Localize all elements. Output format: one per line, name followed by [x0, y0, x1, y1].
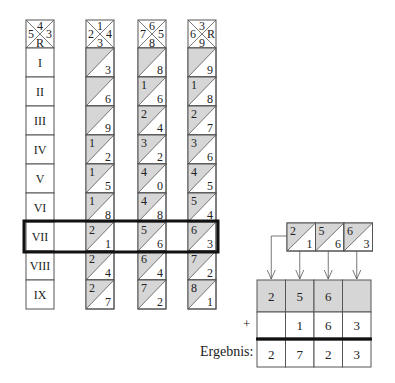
header-left-digit: 5	[28, 27, 34, 41]
units-digit: 4	[157, 266, 163, 280]
units-sum-digit: 1	[297, 318, 304, 333]
row-label-vii: VII	[26, 222, 54, 251]
tens-digit: 2	[141, 107, 147, 121]
tens-digit: 6	[347, 224, 353, 238]
rod-2-cell: 40	[138, 164, 166, 193]
result-digit: 2	[268, 347, 275, 362]
label-rod-header: 453R	[26, 19, 54, 50]
units-digit: 5	[105, 179, 111, 193]
tens-digit: 2	[89, 223, 95, 237]
tens-digit: 1	[89, 136, 95, 150]
rod-1-cell: 21	[86, 222, 114, 251]
rod-2-header: 6758	[138, 19, 166, 50]
row-label-vi: VI	[26, 193, 54, 222]
tens-digit: 7	[191, 252, 197, 266]
header-top-digit: 6	[149, 19, 155, 33]
result-digit: 2	[325, 347, 332, 362]
rod-3-cell: 27	[188, 106, 216, 135]
row-label-iii: III	[26, 106, 54, 135]
tens-digit: 2	[89, 281, 95, 295]
tens-digit: 2	[89, 252, 95, 266]
rod-2-cell: 48	[138, 193, 166, 222]
rod-1-cell: 6	[86, 77, 114, 106]
tens-digit: 7	[141, 281, 147, 295]
rod-2-cell: 56	[138, 222, 166, 251]
units-digit: 9	[207, 63, 213, 77]
plus-sign: +	[243, 316, 250, 332]
roman-numeral: VII	[32, 230, 49, 244]
units-digit: 2	[105, 150, 111, 164]
header-right-digit: R	[207, 27, 215, 41]
units-digit: 2	[157, 150, 163, 164]
roman-numeral: IX	[34, 288, 47, 302]
header-top-digit: 4	[37, 19, 43, 33]
tens-digit: 3	[191, 136, 197, 150]
row-label-i: I	[26, 48, 54, 77]
rod-2-cell: 16	[138, 77, 166, 106]
units-digit: 2	[157, 295, 163, 309]
rod-2-cell: 8	[138, 48, 166, 77]
units-sum-digit: 3	[354, 318, 361, 333]
roman-numeral: II	[36, 85, 44, 99]
tens-sum-digit: 2	[268, 289, 275, 304]
units-digit: 6	[335, 237, 341, 251]
header-left-digit: 6	[190, 27, 196, 41]
units-digit: 7	[105, 295, 111, 309]
rod-1-cell: 18	[86, 193, 114, 222]
result-label: Ergebnis:	[200, 344, 253, 360]
units-digit: 5	[207, 179, 213, 193]
rod-3-cell: 63	[188, 222, 216, 251]
units-digit: 3	[207, 237, 213, 251]
tens-digit: 1	[141, 78, 147, 92]
header-left-digit: 2	[88, 27, 94, 41]
extracted-row: 215663	[287, 223, 373, 251]
rod-3-cell: 18	[188, 77, 216, 106]
rod-1-cell: 9	[86, 106, 114, 135]
tens-digit: 4	[191, 165, 197, 179]
tens-digit: 4	[141, 194, 147, 208]
header-left-digit: 7	[140, 27, 146, 41]
tens-sum-digit: 5	[297, 289, 304, 304]
units-digit: 2	[207, 266, 213, 280]
row-label-viii: VIII	[26, 251, 54, 280]
rod-2-cell: 72	[138, 280, 166, 309]
row-label-iv: IV	[26, 135, 54, 164]
rod-3-cell: 81	[188, 280, 216, 309]
units-sum-digit: 6	[325, 318, 332, 333]
roman-numeral: VI	[34, 201, 47, 215]
units-digit: 6	[105, 92, 111, 106]
roman-numeral: I	[38, 56, 42, 70]
tens-digit: 1	[89, 165, 95, 179]
rod-1-cell: 15	[86, 164, 114, 193]
rod-1-cell: 24	[86, 251, 114, 280]
header-top-digit: 3	[199, 19, 205, 33]
rod-3-cell: 45	[188, 164, 216, 193]
rod-3-cell: 72	[188, 251, 216, 280]
tens-digit: 6	[141, 252, 147, 266]
tens-digit: 5	[319, 224, 325, 238]
row-label-ix: IX	[26, 280, 54, 309]
result-digit: 3	[354, 347, 361, 362]
rod-3-cell: 9	[188, 48, 216, 77]
addition-grid: 2251766233	[256, 280, 372, 367]
tens-sum-cell	[343, 280, 372, 312]
units-digit: 1	[207, 295, 213, 309]
units-digit: 1	[307, 237, 313, 251]
roman-numeral: V	[36, 172, 45, 186]
units-digit: 6	[157, 237, 163, 251]
tens-digit: 8	[191, 281, 197, 295]
units-digit: 4	[105, 266, 111, 280]
row-label-ii: II	[26, 77, 54, 106]
units-digit: 3	[364, 237, 370, 251]
units-digit: 6	[157, 92, 163, 106]
roman-numeral: VIII	[30, 259, 51, 273]
tens-digit: 4	[141, 165, 147, 179]
tens-digit: 5	[141, 223, 147, 237]
rod-1-cell: 3	[86, 48, 114, 77]
tens-sum-digit: 6	[325, 289, 332, 304]
rod-2-cell: 64	[138, 251, 166, 280]
rod-3-cell: 54	[188, 193, 216, 222]
tens-digit: 3	[141, 136, 147, 150]
napier-rods-diagram: 453RIIIIIIIVVVIVIIVIIIIX1243369121518212…	[0, 0, 395, 383]
rod-1-header: 1243	[86, 19, 114, 50]
